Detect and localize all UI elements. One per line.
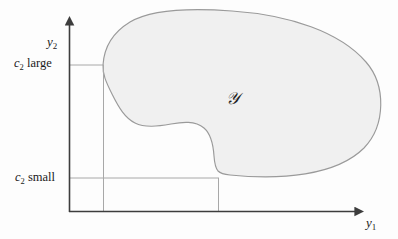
- c2-small-text: small: [28, 170, 55, 184]
- region-Y-label: 𝒴: [226, 90, 239, 107]
- figure-canvas: y2 y1 c2 large c2 small 𝒴: [0, 0, 398, 239]
- x-axis-label: y1: [366, 216, 376, 229]
- figure-svg: [0, 0, 398, 239]
- c2-small-var: c: [15, 170, 21, 184]
- c2-large-sub: 2: [20, 62, 24, 72]
- y-axis-label-var: y: [47, 34, 53, 49]
- y-axis-label: y2: [47, 35, 57, 48]
- x-axis-label-sub: 1: [372, 222, 377, 232]
- y-tick-label-c2-small: c2 small: [15, 171, 55, 184]
- x-axis-label-var: y: [366, 215, 372, 230]
- y-tick-label-c2-large: c2 large: [14, 57, 52, 70]
- region-Y-shape: [103, 10, 381, 177]
- c2-small-sub: 2: [21, 176, 25, 186]
- c2-large-var: c: [14, 56, 20, 70]
- c2-large-text: large: [27, 56, 52, 70]
- y-axis-label-sub: 2: [53, 41, 58, 51]
